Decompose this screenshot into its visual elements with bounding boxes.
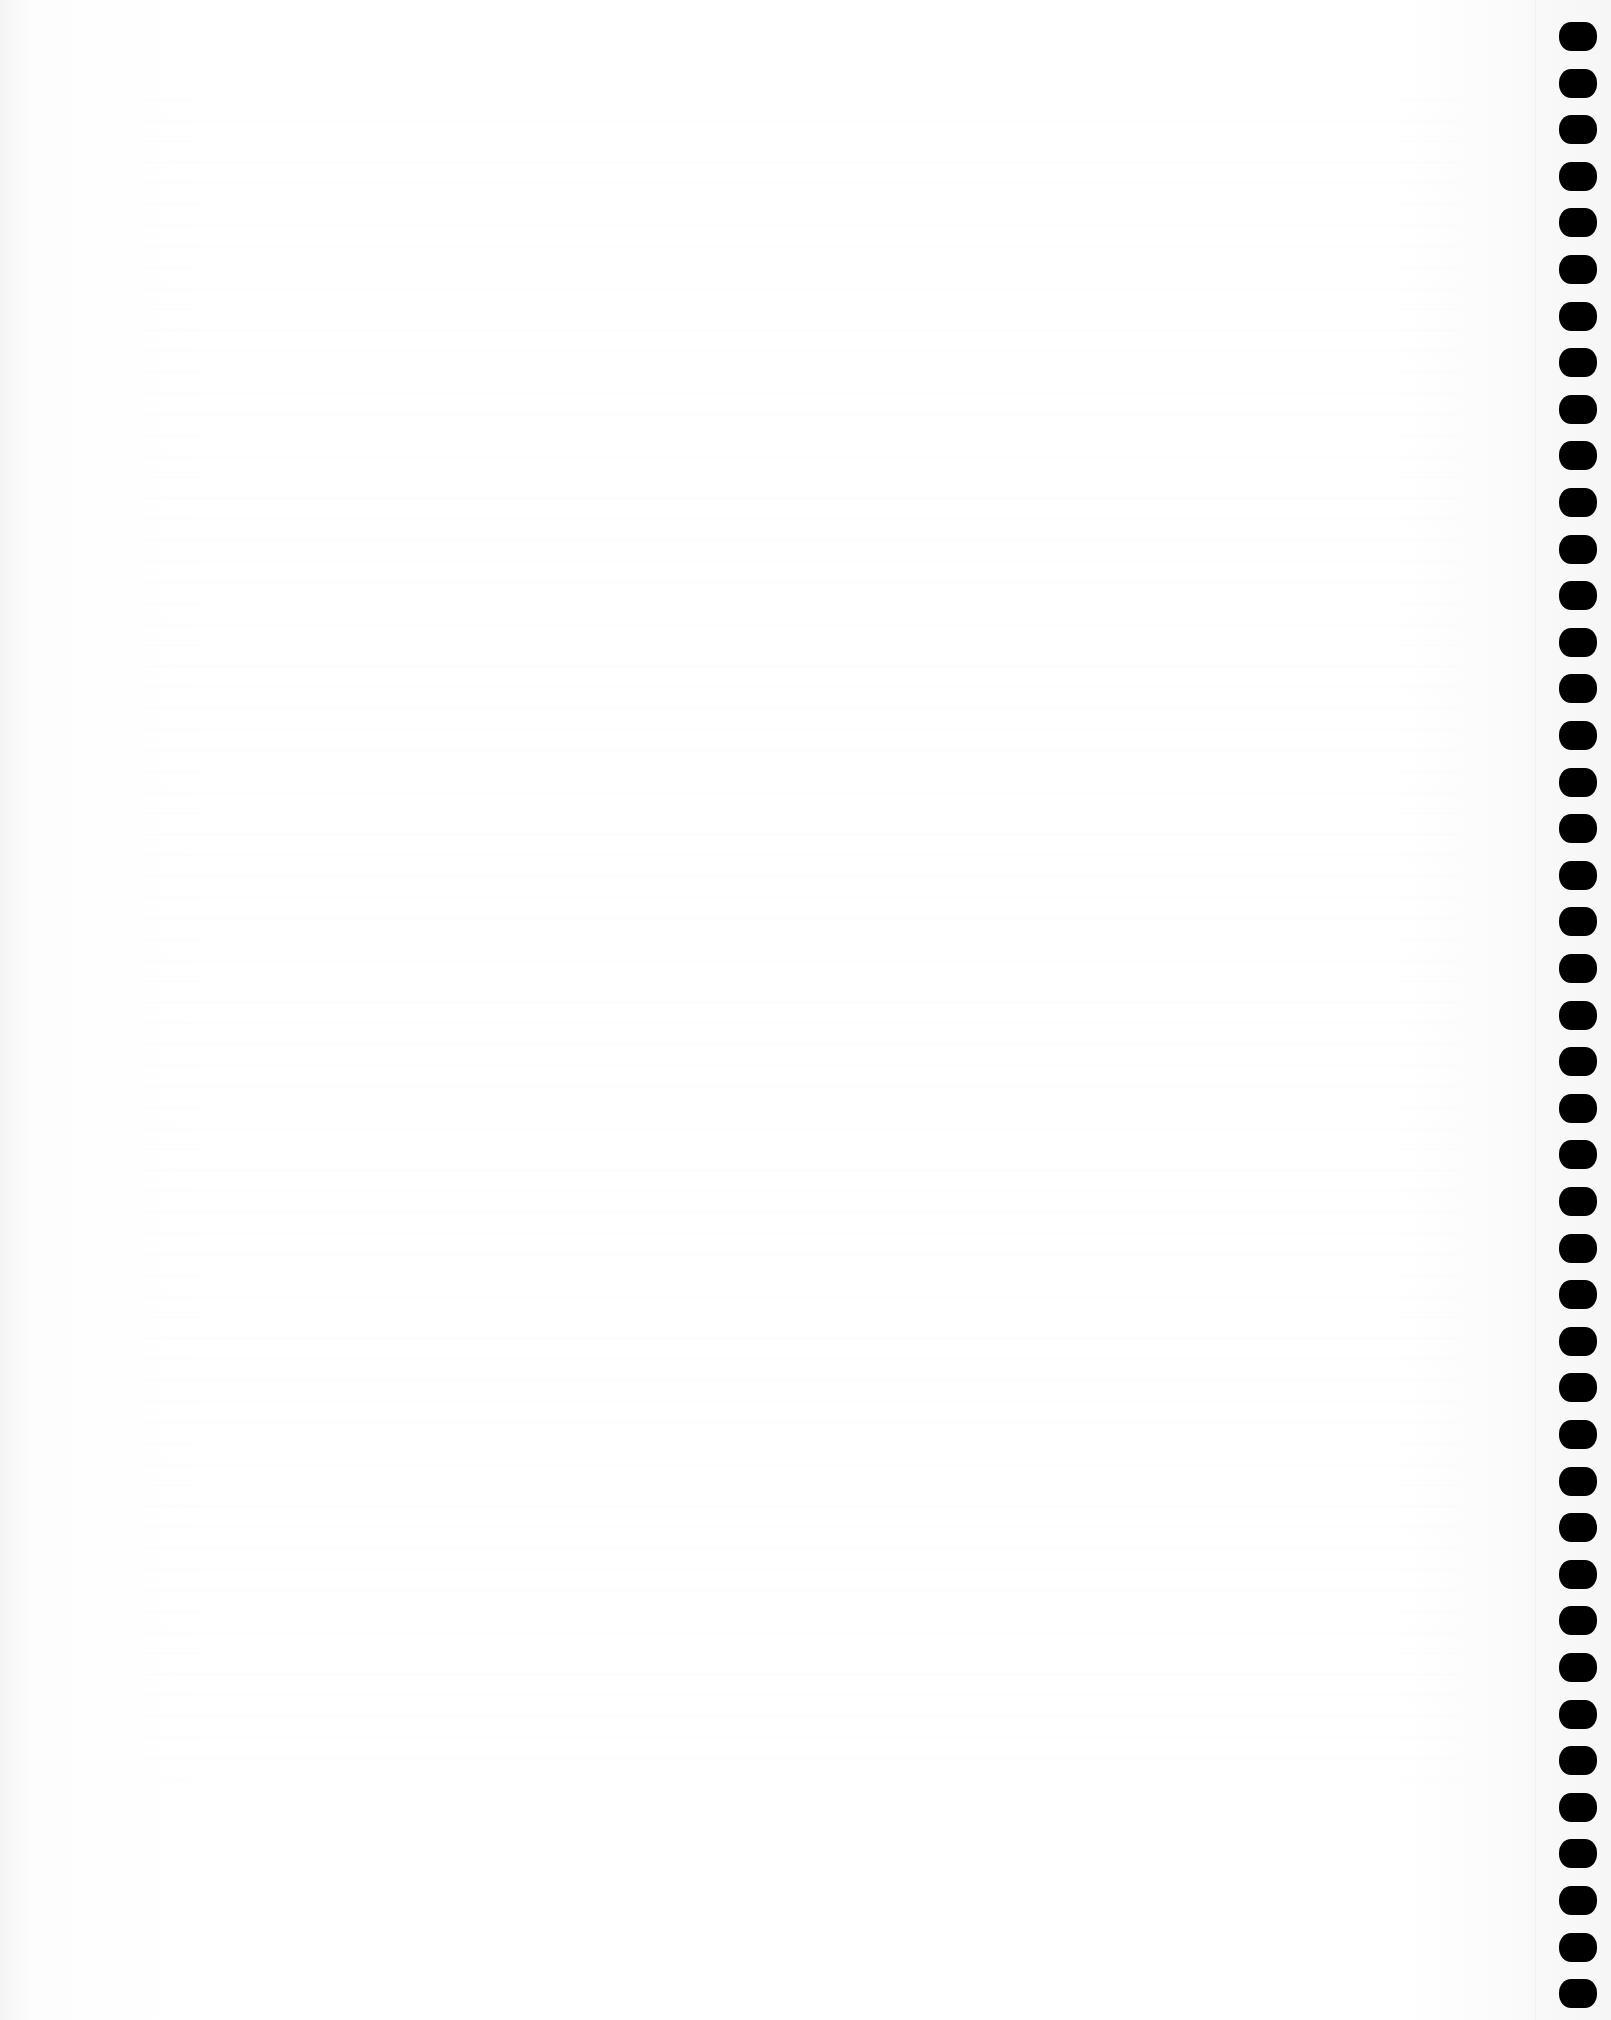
binding-hole [1559,1280,1597,1309]
binding-hole [1559,488,1597,517]
binding-hole [1559,441,1597,470]
binding-hole [1559,814,1597,843]
binding-hole [1559,1420,1597,1449]
binding-hole [1559,581,1597,610]
binding-hole [1559,1094,1597,1123]
binding-hole [1559,1700,1597,1729]
binding-hole [1559,1373,1597,1402]
binding-hole [1559,1979,1597,2008]
binding-hole [1559,1187,1597,1216]
binding-hole [1559,162,1597,191]
binding-hole [1559,628,1597,657]
binding-hole [1559,907,1597,936]
binding-hole [1559,535,1597,564]
spiral-binding-holes [1559,0,1599,2020]
binding-hole [1559,22,1597,51]
notebook-page [0,0,1611,2020]
binding-hole [1559,1839,1597,1868]
binding-hole [1559,69,1597,98]
binding-hole [1559,1140,1597,1169]
binding-hole [1559,1327,1597,1356]
binding-hole [1559,1746,1597,1775]
binding-hole [1559,1606,1597,1635]
binding-hole [1559,1513,1597,1542]
binding-hole [1559,395,1597,424]
binding-hole [1559,954,1597,983]
binding-hole [1559,1234,1597,1263]
binding-hole [1559,1886,1597,1915]
binding-hole [1559,255,1597,284]
binding-hole [1559,208,1597,237]
binding-hole [1559,1001,1597,1030]
binding-hole [1559,1560,1597,1589]
show-through-texture [140,80,1460,1780]
binding-hole [1559,302,1597,331]
binding-hole [1559,1933,1597,1962]
binding-hole [1559,1793,1597,1822]
binding-hole [1559,348,1597,377]
binding-hole [1559,1653,1597,1682]
binding-hole [1559,768,1597,797]
binding-hole [1559,1047,1597,1076]
binding-hole [1559,1467,1597,1496]
binding-hole [1559,861,1597,890]
binding-hole [1559,674,1597,703]
binding-hole [1559,115,1597,144]
binding-hole [1559,721,1597,750]
page-edge-line [1535,0,1536,2020]
